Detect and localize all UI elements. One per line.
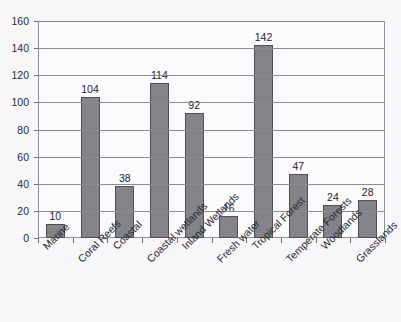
bar-chart-figure: 020406080100120140160 101043811492161424…: [0, 0, 401, 322]
bar-value-label: 10: [50, 211, 62, 222]
bar: [81, 97, 100, 238]
y-axis: 020406080100120140160: [0, 0, 36, 260]
bar: [358, 200, 377, 238]
y-axis-tick-label: 60: [0, 151, 29, 162]
bar: [150, 83, 169, 238]
bar-value-label: 114: [151, 70, 168, 81]
y-axis-tick-label: 40: [0, 179, 29, 190]
bar-value-label: 47: [292, 161, 304, 172]
y-axis-tick-label: 20: [0, 206, 29, 217]
bar-value-label: 104: [81, 84, 99, 95]
bar-value-label: 142: [255, 32, 273, 43]
y-axis-tick-label: 80: [0, 124, 29, 135]
bar-value-label: 28: [362, 187, 374, 198]
bar-value-label: 38: [119, 173, 131, 184]
bar-value-label: 92: [188, 100, 200, 111]
y-axis-tick-label: 100: [0, 97, 29, 108]
bar: [254, 45, 273, 238]
y-axis-tick-label: 120: [0, 70, 29, 81]
y-axis-tick-label: 140: [0, 43, 29, 54]
y-axis-tick-label: 160: [0, 16, 29, 27]
x-axis-category-labels: MarineCoral ReefsCoastalCoastal wetlands…: [0, 238, 401, 322]
